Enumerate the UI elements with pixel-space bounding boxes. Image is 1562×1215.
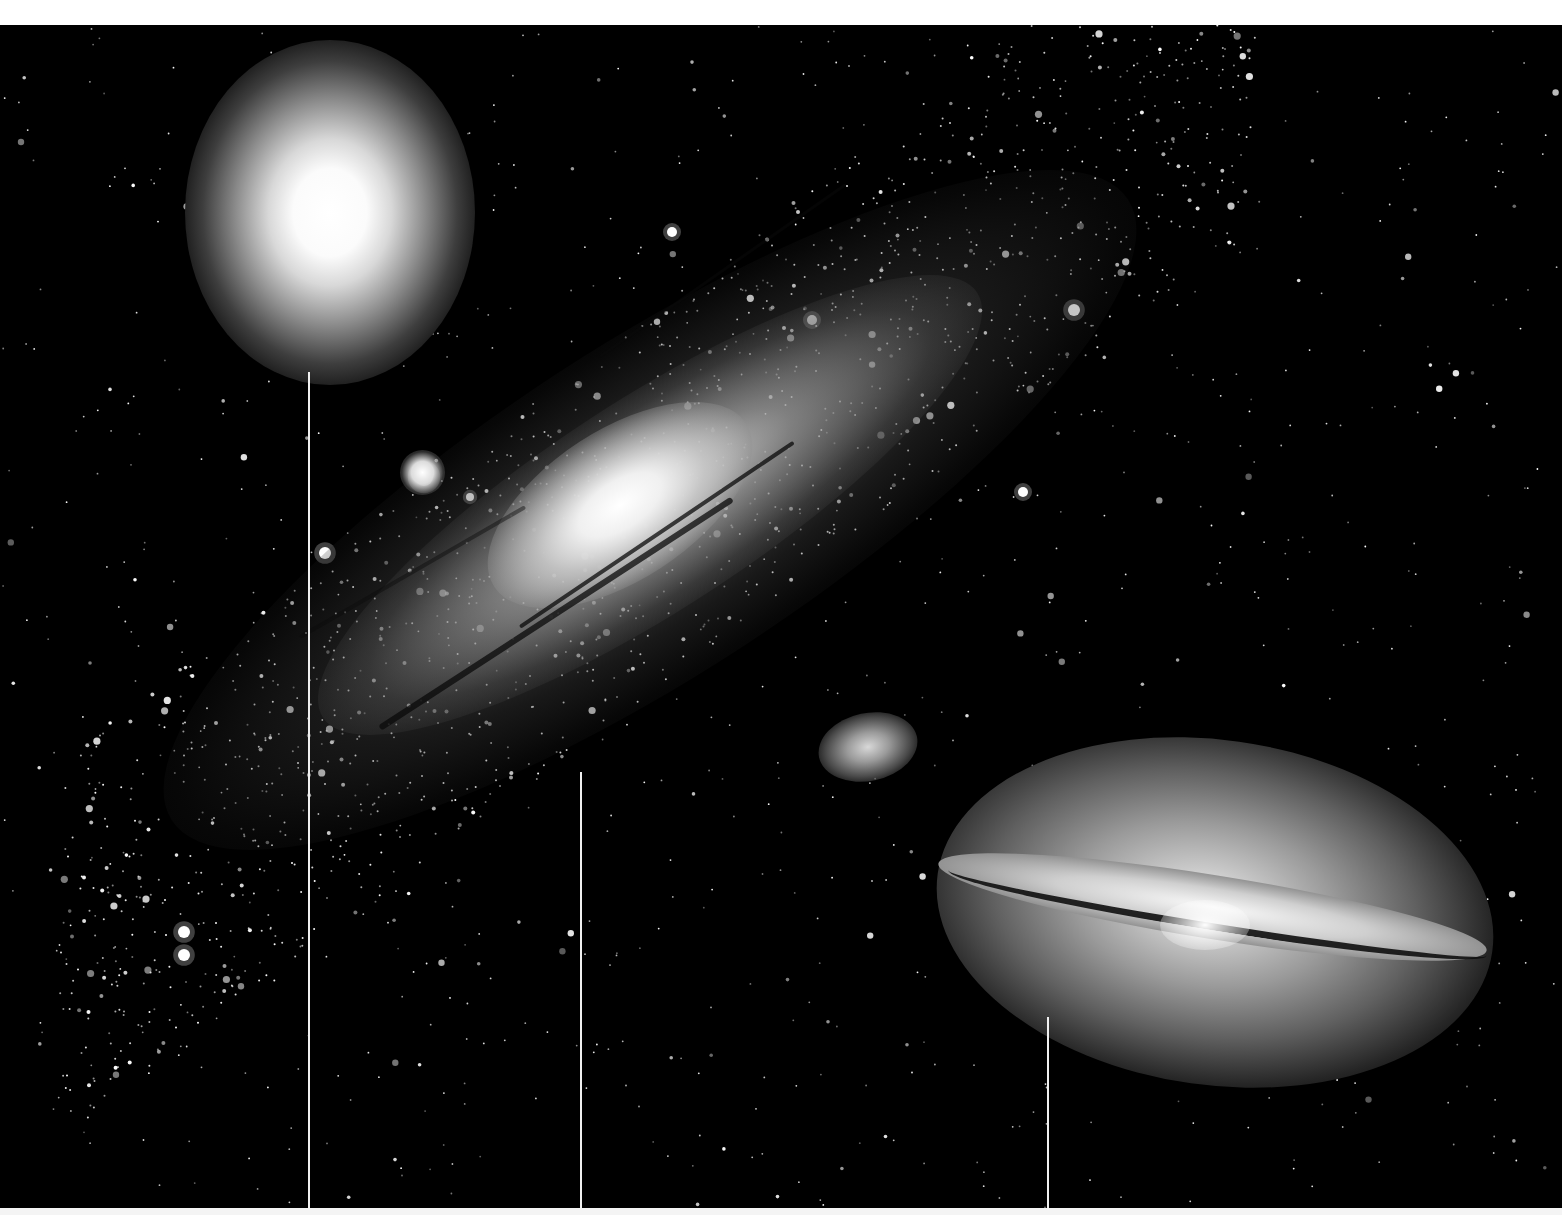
pointer-line-elliptical (308, 372, 310, 1208)
elliptical-galaxy (185, 40, 475, 385)
sombrero-galaxy-core (1160, 900, 1250, 950)
pointer-line-spiral (580, 772, 582, 1208)
companion-star-cluster (400, 450, 445, 495)
top-border (0, 0, 1562, 25)
pointer-line-sombrero (1047, 1017, 1049, 1208)
bottom-border (0, 1208, 1562, 1215)
starfield-photo (0, 25, 1562, 1208)
